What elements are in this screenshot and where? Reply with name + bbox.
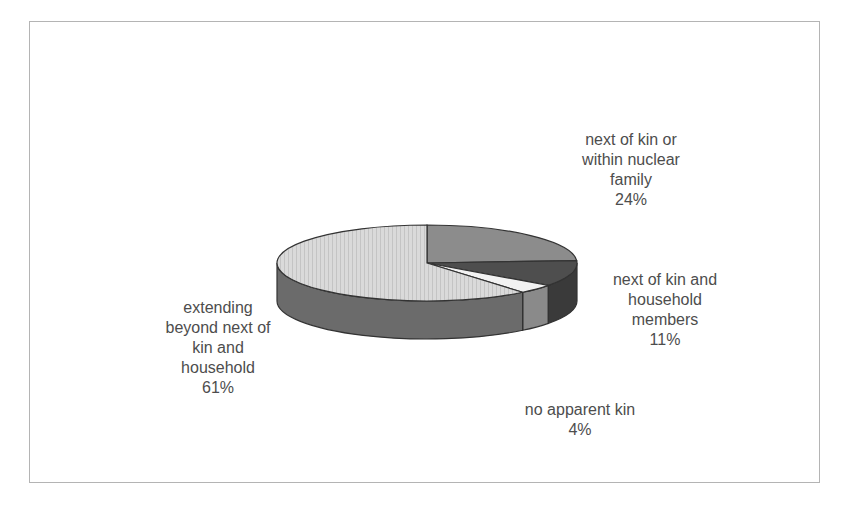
- label-household-members: next of kin and household members11%: [580, 250, 750, 350]
- label-no-apparent-kin: no apparent kin4%: [490, 380, 670, 440]
- label-nuclear-family: next of kin or within nuclear family24%: [556, 110, 706, 210]
- label-extending-beyond: extending beyond next of kin and househo…: [148, 278, 288, 398]
- pie-side-2: [523, 285, 549, 330]
- pie-slice-0: [427, 225, 577, 263]
